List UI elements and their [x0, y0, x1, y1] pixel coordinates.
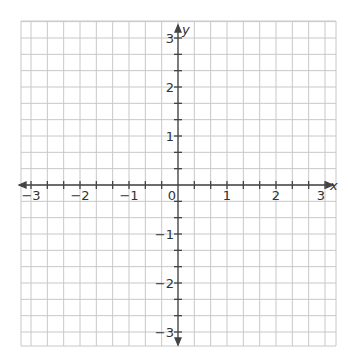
y-axis-down-arrow-icon	[175, 338, 181, 345]
x-tick-label: −1	[119, 188, 138, 203]
x-axis-label: x	[329, 178, 338, 193]
x-tick-label: −2	[70, 188, 89, 203]
x-tick-label: 1	[223, 188, 231, 203]
y-tick-label: 1	[166, 129, 174, 144]
y-tick-label: −1	[155, 227, 174, 242]
x-tick-label: 0	[168, 188, 176, 203]
coordinate-plane: −3−2−10123321−1−2−3xy	[0, 0, 348, 364]
y-axis-label: y	[181, 22, 190, 37]
axes	[19, 25, 333, 345]
x-tick-label: 2	[272, 188, 280, 203]
y-tick-label: −2	[155, 276, 174, 291]
y-tick-label: −3	[155, 325, 174, 340]
y-axis-up-arrow-icon	[175, 25, 181, 32]
y-tick-label: 2	[166, 80, 174, 95]
y-tick-label: 3	[166, 31, 174, 46]
tick-labels: −3−2−10123321−1−2−3xy	[21, 22, 338, 340]
x-tick-label: 3	[317, 188, 325, 203]
x-tick-label: −3	[21, 188, 40, 203]
